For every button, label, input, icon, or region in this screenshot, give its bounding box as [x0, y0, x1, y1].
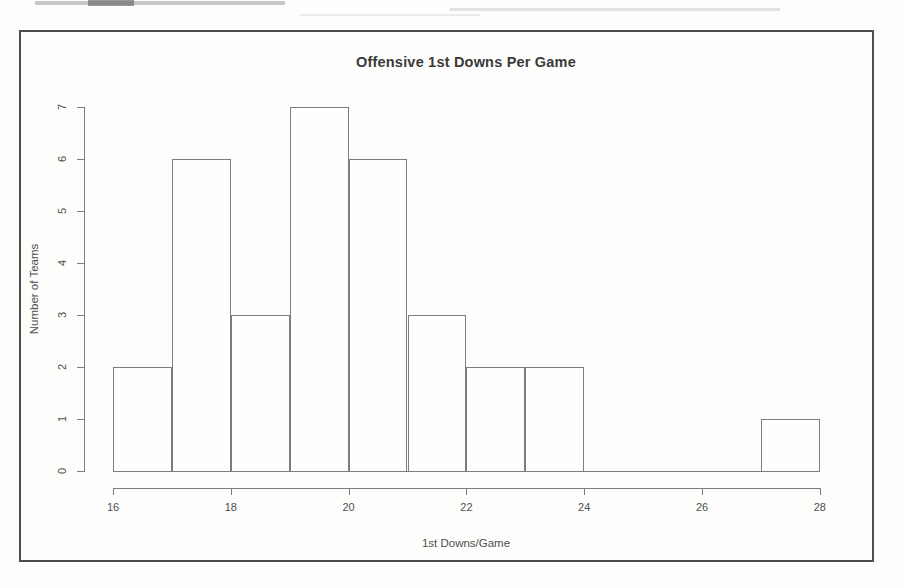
histogram-bar: [113, 367, 172, 472]
y-tick-label: 6: [56, 156, 68, 162]
y-tick: [77, 159, 84, 160]
x-tick: [231, 488, 232, 495]
y-tick: [77, 263, 84, 264]
histogram-bar: [525, 367, 584, 472]
y-tick: [77, 315, 84, 316]
x-tick: [820, 488, 821, 495]
y-tick-label: 4: [56, 260, 68, 266]
x-tick-label: 16: [107, 501, 119, 513]
histogram-bar: [172, 159, 231, 472]
y-tick-label: 3: [56, 312, 68, 318]
x-tick-label: 28: [814, 501, 826, 513]
y-tick-label: 2: [56, 364, 68, 370]
x-tick: [466, 488, 467, 495]
scan-smudge: [450, 8, 780, 11]
x-tick: [584, 488, 585, 495]
chart-frame-border: [19, 30, 874, 562]
x-tick-label: 20: [342, 501, 354, 513]
histogram-bar: [466, 367, 525, 472]
scanned-chart-page: Offensive 1st Downs Per Game 1st Downs/G…: [0, 0, 905, 588]
x-tick-label: 24: [578, 501, 590, 513]
histogram-bar: [761, 419, 820, 472]
y-tick: [77, 367, 84, 368]
x-tick: [113, 488, 114, 495]
y-tick-label: 1: [56, 416, 68, 422]
scan-smudge: [300, 14, 480, 16]
y-tick: [77, 211, 84, 212]
histogram-bar: [231, 315, 290, 472]
y-tick-label: 7: [56, 104, 68, 110]
y-axis-title: Number of Teams: [28, 189, 40, 389]
x-tick: [349, 488, 350, 495]
x-tick-label: 26: [696, 501, 708, 513]
y-tick-label: 5: [56, 208, 68, 214]
chart-title: Offensive 1st Downs Per Game: [166, 54, 766, 70]
y-tick: [77, 471, 84, 472]
x-tick-label: 18: [225, 501, 237, 513]
histogram-bar: [349, 159, 408, 472]
histogram-bar: [290, 107, 349, 472]
scan-smudge: [88, 0, 134, 6]
histogram-bar: [408, 315, 467, 472]
x-axis-title: 1st Downs/Game: [166, 537, 766, 549]
x-tick: [702, 488, 703, 495]
y-tick: [77, 107, 84, 108]
y-tick-label: 0: [56, 468, 68, 474]
y-tick: [77, 419, 84, 420]
scan-smudge: [35, 1, 285, 5]
y-axis-line: [84, 107, 85, 472]
x-tick-label: 22: [460, 501, 472, 513]
